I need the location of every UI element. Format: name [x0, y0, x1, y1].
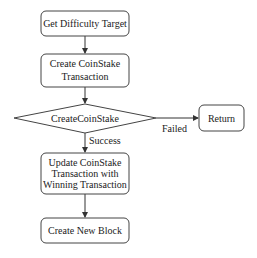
node-label-line-3: Winning Transaction — [43, 179, 127, 190]
node-get-difficulty-target: Get Difficulty Target — [41, 11, 129, 36]
node-create-new-block: Create New Block — [41, 218, 129, 243]
node-label: Create New Block — [48, 225, 122, 236]
edge-label-failed: Failed — [162, 123, 187, 134]
node-label: Get Difficulty Target — [43, 18, 127, 29]
node-label: Return — [208, 113, 235, 124]
edge-label-success: Success — [89, 135, 121, 146]
node-label-line-1: Create CoinStake — [50, 58, 121, 69]
node-update-coinstake-transaction: Update CoinStake Transaction with Winnin… — [41, 153, 129, 194]
node-createcoinstake-decision: CreateCoinStake — [14, 104, 156, 133]
node-return: Return — [199, 105, 244, 131]
node-create-coinstake-transaction: Create CoinStake Transaction — [41, 54, 129, 87]
flowchart-canvas: Failed Success Get Difficulty Target Cre… — [0, 0, 257, 258]
decision-label: CreateCoinStake — [51, 113, 119, 124]
node-label-line-1: Update CoinStake — [48, 157, 122, 168]
node-label-line-2: Transaction with — [51, 168, 118, 179]
node-label-line-2: Transaction — [62, 71, 109, 82]
